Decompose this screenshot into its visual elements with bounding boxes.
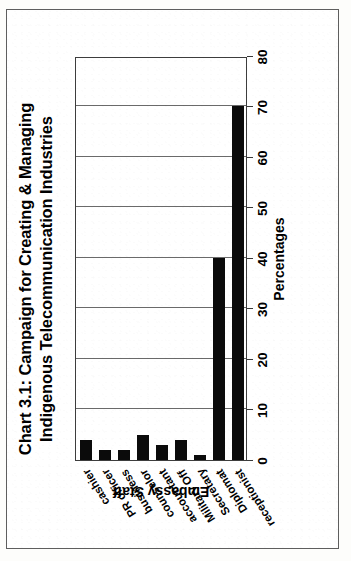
axis-tick-label: 40: [255, 251, 270, 266]
bar-pr-officer: [99, 450, 111, 460]
axis-tick-label: 60: [255, 150, 270, 165]
axis-tick: [247, 309, 253, 310]
axis-tick-label: 20: [255, 352, 270, 367]
axis-tick: [247, 107, 253, 108]
bar-secretary: [194, 455, 206, 460]
rotated-chart-wrapper: Chart 3.1: Campaign for Creating & Manag…: [13, 19, 333, 539]
axis-tick-label: 50: [255, 201, 270, 216]
category-axis-title: Embassy Staff: [75, 482, 247, 500]
axis-tick: [247, 410, 253, 411]
axis-tick: [247, 157, 253, 158]
chart-title-line-2: Indigenous Telecommunication Industries: [36, 19, 57, 539]
scanned-page: Chart 3.1: Campaign for Creating & Manag…: [0, 0, 351, 561]
bar-diplomat: [213, 258, 225, 460]
axis-tick-label: 10: [255, 403, 270, 418]
axis-tick-label: 70: [255, 100, 270, 115]
bar-counselor: [137, 435, 149, 460]
axis-tick-label: 80: [255, 49, 270, 64]
axis-tick: [247, 56, 253, 57]
axis-tick-label: 0: [255, 457, 270, 465]
bar-military-off: [175, 440, 187, 460]
axis-tick: [247, 359, 253, 360]
bar-cashier: [80, 440, 92, 460]
plot-wrapper: [75, 57, 247, 461]
bar-chart: Chart 3.1: Campaign for Creating & Manag…: [13, 19, 333, 539]
chart-title: Chart 3.1: Campaign for Creating & Manag…: [15, 19, 57, 539]
value-axis-title: Percentages: [271, 57, 287, 461]
chart-title-line-1: Chart 3.1: Campaign for Creating & Manag…: [15, 19, 36, 539]
category-axis-labels: cashierPR officerbusinesscounseloraccoun…: [75, 461, 247, 539]
axis-tick-label: 30: [255, 302, 270, 317]
axis-tick: [247, 460, 253, 461]
bar-accountant: [156, 445, 168, 460]
axis-tick: [247, 208, 253, 209]
bar-series: [76, 58, 246, 460]
axis-tick: [247, 258, 253, 259]
bar-receptionist: [232, 107, 244, 461]
bar-business: [118, 450, 130, 460]
scan-page-border: Chart 3.1: Campaign for Creating & Manag…: [6, 9, 339, 549]
plot-area: [75, 57, 247, 461]
value-axis-ticks: 01020304050607080: [247, 57, 255, 461]
